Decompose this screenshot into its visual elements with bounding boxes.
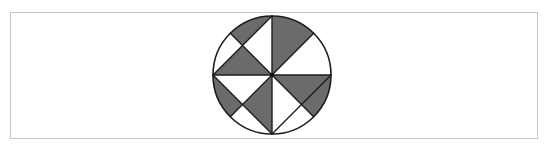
region-top-right-sector [272,16,314,75]
shaded-circle-diagram [0,0,544,150]
region-top-left-triangle [213,46,272,76]
center-dot [270,73,274,77]
region-bottom-left-triangle [243,75,273,134]
